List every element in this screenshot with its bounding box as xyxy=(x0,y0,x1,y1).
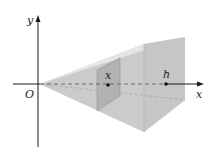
height-point xyxy=(164,82,168,86)
x-axis-arrow-icon xyxy=(197,82,204,87)
y-axis-arrow-icon xyxy=(36,15,41,22)
origin-label: O xyxy=(25,88,34,101)
pyramid-diagram: y x O x h xyxy=(0,0,212,155)
x-axis-label: x xyxy=(196,88,203,101)
diagram-canvas: y x O x h xyxy=(0,0,212,155)
left-face xyxy=(40,44,144,132)
y-axis-label: y xyxy=(26,14,34,27)
height-point-label: h xyxy=(163,68,170,81)
section-point xyxy=(106,83,110,87)
section-point-label: x xyxy=(105,69,112,82)
